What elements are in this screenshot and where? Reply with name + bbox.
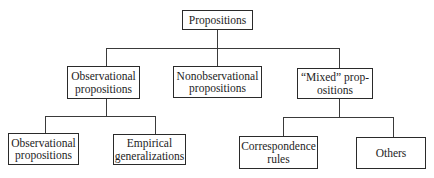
connector-to-mixed — [339, 48, 340, 68]
node-label-line: Correspondence — [241, 140, 316, 153]
node-label-line: generalizations — [115, 150, 185, 163]
node-label-line: Observational — [71, 70, 136, 83]
node-observational-propositions-child: Observational propositions — [8, 133, 79, 165]
node-label-line: propositions — [75, 83, 132, 96]
connector-mixed-stem — [339, 98, 340, 118]
connector-to-observational — [106, 48, 107, 66]
connector-root-stem — [217, 29, 218, 49]
node-nonobservational-propositions: Nonobservational propositions — [173, 66, 262, 98]
node-empirical-generalizations: Empirical generalizations — [113, 134, 186, 165]
node-label: Others — [376, 147, 407, 160]
node-label-line: ositions — [317, 84, 353, 97]
connector-to-obs-child — [45, 116, 46, 133]
connector-to-others — [393, 117, 394, 137]
node-label-line: rules — [267, 153, 289, 166]
node-mixed-propositions: “Mixed” prop- ositions — [297, 68, 373, 99]
node-label-line: propositions — [189, 82, 246, 95]
node-propositions: Propositions — [182, 10, 253, 30]
node-correspondence-rules: Correspondence rules — [239, 136, 318, 169]
node-observational-propositions: Observational propositions — [67, 66, 140, 99]
connector-observational-stem — [106, 98, 107, 117]
connector-to-correspondence — [283, 117, 284, 136]
connector-observational-bar — [45, 116, 155, 117]
node-label: Propositions — [189, 14, 247, 27]
node-others: Others — [356, 137, 426, 169]
node-label-line: Observational — [11, 137, 76, 150]
node-label-line: Empirical — [127, 137, 172, 150]
connector-level2-bar — [106, 48, 340, 49]
node-label-line: “Mixed” prop- — [301, 71, 369, 84]
node-label-line: Nonobservational — [177, 70, 259, 83]
connector-mixed-bar — [283, 117, 394, 118]
connector-to-empirical — [155, 116, 156, 134]
connector-to-nonobservational — [217, 48, 218, 66]
node-label-line: propositions — [15, 149, 72, 162]
